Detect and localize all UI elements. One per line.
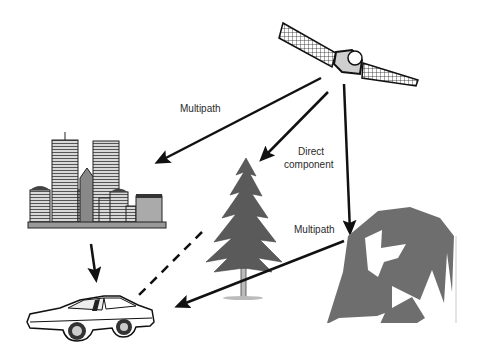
dashed-tree-to-car: [138, 232, 202, 296]
arrow-buildings-to-car: [91, 244, 96, 279]
arrow-satellite-to-buildings: [158, 78, 321, 162]
label-multipath-top: Multipath: [180, 103, 221, 115]
buildings-icon: [28, 132, 166, 228]
tree-icon: [206, 158, 282, 300]
satellite-icon: [279, 23, 418, 86]
mountain-icon: [327, 207, 456, 324]
car-icon: [27, 296, 154, 341]
label-direct: Direct: [298, 146, 324, 158]
arrow-satellite-to-mountain: [344, 84, 350, 232]
label-component: component: [284, 159, 333, 171]
label-multipath-right: Multipath: [294, 224, 335, 236]
diagram-canvas: [0, 0, 481, 356]
